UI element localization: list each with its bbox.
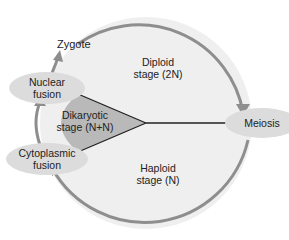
fusion-arrow bbox=[36, 102, 40, 145]
haploid-stage-label: Haploid stage (N) bbox=[118, 162, 198, 186]
dikaryotic-line2: stage (N+N) bbox=[45, 121, 125, 133]
cytoplasmic-fusion-line1: Cytoplasmic bbox=[6, 147, 88, 159]
meiosis-line1: Meiosis bbox=[226, 117, 289, 129]
nuclear-fusion-line2: fusion bbox=[9, 88, 85, 100]
diploid-line2: stage (2N) bbox=[118, 68, 198, 80]
diploid-line1: Diploid bbox=[118, 56, 198, 68]
haploid-line1: Haploid bbox=[118, 162, 198, 174]
zygote-label: Zygote bbox=[57, 38, 91, 50]
meiosis-label: Meiosis bbox=[226, 117, 289, 129]
dikaryotic-line1: Dikaryotic bbox=[45, 109, 125, 121]
cytoplasmic-fusion-label: Cytoplasmic fusion bbox=[6, 147, 88, 171]
zygote-arrowhead-icon bbox=[53, 50, 63, 62]
dikaryotic-stage-label: Dikaryotic stage (N+N) bbox=[45, 109, 125, 133]
nuclear-fusion-label: Nuclear fusion bbox=[9, 76, 85, 100]
nuclear-fusion-line1: Nuclear bbox=[9, 76, 85, 88]
diploid-stage-label: Diploid stage (2N) bbox=[118, 56, 198, 80]
haploid-line2: stage (N) bbox=[118, 174, 198, 186]
cytoplasmic-fusion-line2: fusion bbox=[6, 159, 88, 171]
